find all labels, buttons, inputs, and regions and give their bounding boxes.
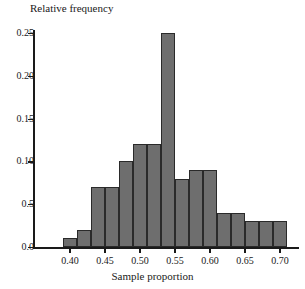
histogram-chart: Relative frequency 0.00.50.100.150.200.2…	[0, 0, 305, 289]
histogram-bar	[273, 221, 287, 247]
histogram-bar	[105, 187, 119, 247]
histogram-bar	[175, 179, 189, 247]
x-tick-label: 0.45	[88, 255, 122, 266]
x-axis-title: Sample proportion	[0, 270, 305, 283]
x-tick-label: 0.55	[158, 255, 192, 266]
x-tick-label: 0.65	[228, 255, 262, 266]
histogram-bar	[231, 213, 245, 247]
x-tick-mark	[69, 247, 70, 253]
x-tick-label: 0.70	[263, 255, 297, 266]
x-tick-mark	[139, 247, 140, 253]
x-tick-label: 0.50	[123, 255, 157, 266]
histogram-bar	[189, 170, 203, 247]
bars-layer	[0, 0, 305, 289]
x-tick-mark	[104, 247, 105, 253]
histogram-bar	[203, 170, 217, 247]
histogram-bar	[217, 213, 231, 247]
histogram-bar	[245, 221, 259, 247]
x-tick-label: 0.60	[193, 255, 227, 266]
x-tick-mark	[279, 247, 280, 253]
histogram-bar	[77, 230, 91, 247]
x-tick-mark	[209, 247, 210, 253]
x-tick-mark	[174, 247, 175, 253]
histogram-bar	[63, 238, 77, 247]
x-tick-label: 0.40	[53, 255, 87, 266]
histogram-bar	[91, 187, 105, 247]
histogram-bar	[133, 144, 147, 247]
histogram-bar	[119, 161, 133, 247]
histogram-bar	[259, 221, 273, 247]
x-tick-mark	[244, 247, 245, 253]
histogram-bar	[147, 144, 161, 247]
histogram-bar	[161, 33, 175, 247]
